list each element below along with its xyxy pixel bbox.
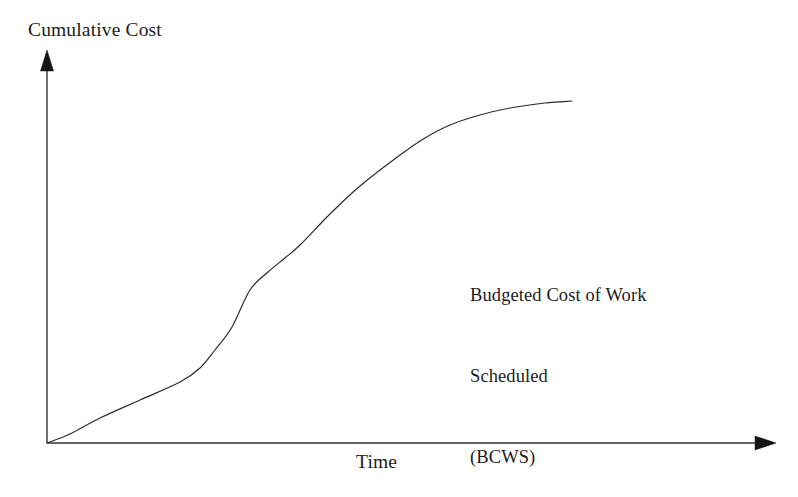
plot-canvas	[0, 0, 798, 497]
bcws-annotation-block: Budgeted Cost of Work Scheduled (BCWS) a…	[470, 228, 647, 497]
annotation-line-2: Scheduled	[470, 363, 647, 390]
y-axis-arrowhead	[41, 50, 54, 71]
annotation-line-3: (BCWS)	[470, 444, 647, 471]
x-axis-arrowhead	[755, 436, 776, 450]
annotation-line-1: Budgeted Cost of Work	[470, 282, 647, 309]
x-axis-title: Time	[356, 452, 397, 472]
y-axis-title: Cumulative Cost	[28, 20, 162, 40]
figure-root: Cumulative Cost Time Budgeted Cost of Wo…	[0, 0, 798, 497]
